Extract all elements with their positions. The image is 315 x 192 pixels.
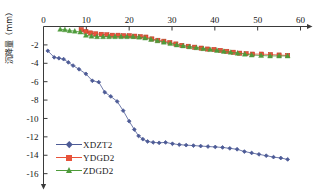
legend-item-xdzt2[interactable]: XDZT2 [56,138,148,151]
y-tick-label: -6 [31,77,39,87]
x-tick-label: 10 [82,15,92,25]
y-tick-label: -8 [31,95,39,105]
legend-swatch-ydgd2 [56,152,82,163]
x-tick-label: 60 [296,15,306,25]
y-axis-title-text: 沉降量（mm） [5,50,14,64]
y-tick-label: -2 [31,40,39,50]
x-tick-label: 30 [168,15,178,25]
legend-item-ydgd2[interactable]: YDGD2 [56,151,148,164]
legend-swatch-xdzt2 [56,139,82,150]
legend-swatch-zdgd2 [56,165,82,176]
legend-label-xdzt2: XDZT2 [82,140,113,150]
chart-legend: XDZT2 YDGD2 ZDGD2 [56,138,148,177]
x-tick-label: 40 [210,15,220,25]
chart-plot-area: 0102030405060-2-4-6-8-10-12-14-16 [0,0,315,192]
y-tick-label: -16 [27,169,39,179]
y-axis-title: 沉降量（mm） [2,52,16,61]
series-ydgd2 [79,28,290,58]
legend-label-zdgd2: ZDGD2 [82,166,114,176]
legend-item-zdgd2[interactable]: ZDGD2 [56,164,148,177]
y-tick-label: -10 [27,114,39,124]
settlement-chart: 0102030405060-2-4-6-8-10-12-14-16 沉降量（mm… [0,0,315,192]
x-tick-label: 20 [125,15,135,25]
y-tick-label: -14 [27,150,39,160]
legend-label-ydgd2: YDGD2 [82,153,115,163]
x-tick-label: 0 [41,15,46,25]
x-tick-label: 50 [253,15,263,25]
y-tick-label: -12 [27,132,39,142]
y-tick-label: -4 [31,58,39,68]
